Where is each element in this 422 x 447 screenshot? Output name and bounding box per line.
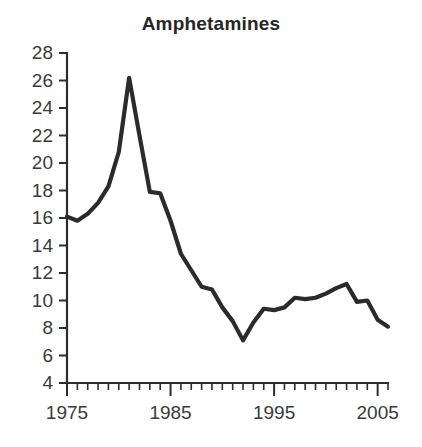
y-axis-tick-label: 28 <box>32 42 53 63</box>
y-axis-tick-label: 20 <box>32 152 53 173</box>
y-axis-tick-label: 6 <box>42 345 53 366</box>
chart-container: Amphetamines 46810121416182022242628 197… <box>0 0 422 447</box>
y-axis-tick-label: 12 <box>32 262 53 283</box>
y-axis: 46810121416182022242628 <box>32 42 67 393</box>
x-axis-tick-label: 1995 <box>253 402 295 423</box>
y-axis-tick-label: 16 <box>32 207 53 228</box>
y-axis-tick-label: 8 <box>42 317 53 338</box>
y-axis-tick-label: 18 <box>32 180 53 201</box>
x-axis-tick-label: 2005 <box>357 402 399 423</box>
data-line-amphetamines <box>67 78 388 341</box>
y-axis-tick-label: 24 <box>32 97 54 118</box>
x-axis-tick-label: 1975 <box>46 402 88 423</box>
y-axis-tick-label: 26 <box>32 70 53 91</box>
y-axis-tick-label: 14 <box>32 235 54 256</box>
y-axis-tick-label: 4 <box>42 372 53 393</box>
y-axis-tick-label: 22 <box>32 125 53 146</box>
data-series-group <box>67 78 388 341</box>
line-chart-plot: 46810121416182022242628 1975198519952005 <box>0 0 422 447</box>
x-axis-tick-label: 1985 <box>149 402 191 423</box>
x-axis: 1975198519952005 <box>46 373 399 423</box>
y-axis-tick-label: 10 <box>32 290 53 311</box>
